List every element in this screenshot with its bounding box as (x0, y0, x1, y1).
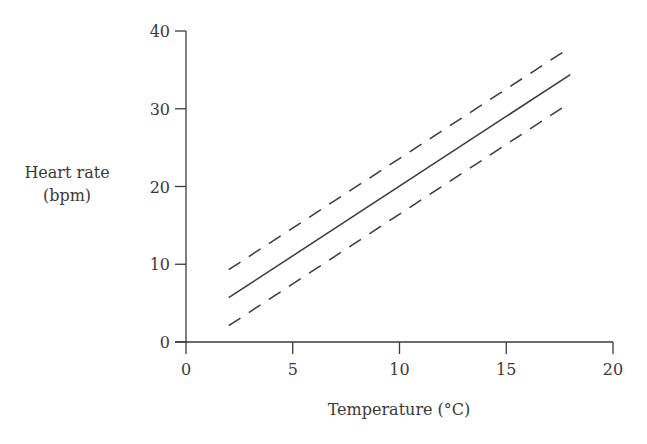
y-tick-label: 40 (150, 22, 170, 41)
series-group (229, 47, 571, 325)
y-tick-label: 10 (150, 255, 170, 274)
y-tick-label: 30 (150, 100, 170, 119)
y-tick-label: 20 (150, 178, 170, 197)
y-axis-title-line2: (bpm) (43, 186, 91, 205)
x-tick-label: 0 (181, 360, 191, 379)
lower-bound-line (229, 103, 571, 326)
y-tick-label: 0 (160, 333, 170, 352)
chart: 01020304005101520 Temperature (°C) Heart… (0, 0, 647, 444)
x-tick-label: 20 (603, 360, 623, 379)
upper-bound-line (229, 47, 571, 269)
axes: 01020304005101520 (150, 22, 624, 379)
x-tick-label: 5 (288, 360, 298, 379)
fitted-line-line (229, 75, 571, 298)
y-axis-title-line1: Heart rate (24, 163, 109, 182)
x-axis-title: Temperature (°C) (328, 400, 471, 419)
x-tick-label: 10 (389, 360, 409, 379)
x-tick-label: 15 (496, 360, 516, 379)
